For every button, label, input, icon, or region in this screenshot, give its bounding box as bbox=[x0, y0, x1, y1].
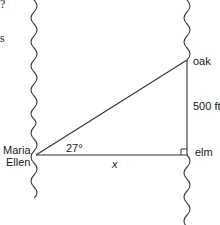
hypotenuse bbox=[36, 60, 187, 155]
right-riverbank-top bbox=[184, 0, 190, 60]
cropped-text-fragment: s bbox=[0, 32, 5, 44]
left-riverbank bbox=[31, 0, 37, 198]
angle-label: 27° bbox=[66, 142, 83, 154]
cropped-text-fragment: ? bbox=[0, 0, 5, 10]
right-angle-marker bbox=[181, 149, 187, 155]
right-riverbank-bottom bbox=[184, 155, 190, 225]
oak-label: oak bbox=[193, 55, 211, 67]
observer-label-line2: Ellen bbox=[6, 156, 30, 168]
observer-label-line1: Maria bbox=[3, 144, 31, 156]
triangle-diagram bbox=[0, 0, 220, 225]
base-label-x: x bbox=[112, 158, 118, 170]
elm-label: elm bbox=[195, 146, 213, 158]
side-length-label: 500 ft bbox=[193, 100, 220, 112]
